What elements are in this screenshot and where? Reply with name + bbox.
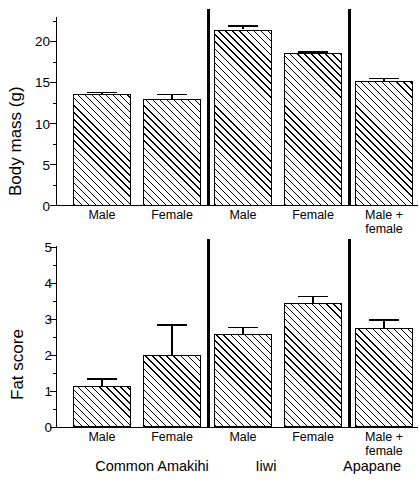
y-tick-label-0: 0: [28, 199, 50, 214]
bar-fat-score-apapane-male-female: [355, 328, 413, 427]
y-tick-label-10: 10: [28, 117, 50, 132]
bar-body-mass-amakihi-female: [143, 99, 201, 206]
y-tick-major-10: [50, 123, 56, 124]
bar-fat-score-iiwi-male: [214, 334, 272, 427]
species-label-iiwi: Iiwi: [231, 458, 301, 474]
y-tick-label-1: 1: [30, 384, 52, 399]
panel-body-mass: Body mass (g) 20 15 10 5 0: [0, 0, 419, 244]
y-tick-minor-4p5: [53, 265, 57, 266]
y-tick-major-1: [50, 391, 56, 392]
y-tick-label-20: 20: [28, 34, 50, 49]
error-bar-fat-score-iiwi-female: [298, 296, 328, 303]
y-tick-minor-2p5: [53, 185, 57, 186]
error-bar-fat-score-iiwi-male: [228, 327, 258, 334]
x-tick-label-top-amakihi-female: Female: [142, 209, 202, 223]
y-axis-line-bottom: [56, 246, 57, 428]
error-bar-body-mass-iiwi-male: [228, 25, 258, 29]
y-tick-major-5: [50, 164, 56, 165]
group-separator-1: [207, 9, 210, 206]
bar-body-mass-iiwi-female: [284, 53, 342, 206]
y-tick-minor-0p5: [53, 409, 57, 410]
error-bar-fat-score-amakihi-male: [87, 378, 117, 385]
y-tick-minor-1p5: [53, 373, 57, 374]
x-tick-label-top-iiwi-male: Male: [213, 209, 273, 223]
species-label-common-amakihi: Common Amakihi: [42, 458, 262, 474]
y-tick-major-2: [50, 355, 56, 356]
y-tick-major-0: [50, 205, 56, 206]
error-bar-body-mass-iiwi-female: [298, 51, 328, 53]
error-bar-fat-score-apapane-male-female: [369, 319, 399, 328]
y-tick-minor-12p5: [53, 103, 57, 104]
bar-fat-score-amakihi-female: [143, 355, 201, 427]
x-tick-label-bottom-amakihi-male: Male: [72, 431, 132, 445]
x-tick-label-top-iiwi-female: Female: [283, 209, 343, 223]
group-separator-2: [348, 9, 351, 206]
group-separator-2-bottom: [348, 239, 351, 427]
y-tick-minor-3p5: [53, 301, 57, 302]
y-axis-line: [56, 17, 57, 206]
x-tick-label-bottom-amakihi-female: Female: [142, 431, 202, 445]
x-tick-label-bottom-apapane-male-female: Male + female: [354, 431, 414, 458]
y-tick-label-2: 2: [30, 348, 52, 363]
y-tick-major-3: [50, 319, 56, 320]
y-tick-label-0-bottom: 0: [30, 420, 52, 435]
error-bar-body-mass-amakihi-female: [157, 94, 187, 99]
error-bar-body-mass-amakihi-male: [87, 92, 117, 95]
y-tick-label-15: 15: [28, 75, 50, 90]
x-tick-label-top-amakihi-male: Male: [72, 209, 132, 223]
error-bar-fat-score-amakihi-female: [157, 324, 187, 355]
y-tick-major-0-bottom: [50, 427, 56, 428]
figure-container: Body mass (g) 20 15 10 5 0: [0, 0, 419, 487]
x-tick-label-bottom-iiwi-male: Male: [213, 431, 273, 445]
group-separator-1-bottom: [207, 239, 210, 427]
y-tick-major-5: [50, 247, 56, 248]
x-tick-label-bottom-iiwi-female: Female: [283, 431, 343, 445]
bar-fat-score-amakihi-male: [73, 386, 131, 427]
y-tick-minor-22p5: [53, 21, 57, 22]
y-axis-label-body-mass: Body mass (g): [6, 86, 26, 196]
bar-fat-score-iiwi-female: [284, 303, 342, 427]
y-tick-label-5: 5: [30, 240, 52, 255]
species-label-apapane: Apapane: [327, 458, 417, 474]
x-tick-label-top-apapane-male-female: Male + female: [354, 209, 414, 236]
y-tick-major-15: [50, 82, 56, 83]
y-tick-label-4: 4: [30, 276, 52, 291]
y-tick-label-3: 3: [30, 312, 52, 327]
bar-body-mass-iiwi-male: [214, 30, 272, 207]
x-axis-line-bottom: [56, 427, 418, 428]
bar-body-mass-amakihi-male: [73, 94, 131, 206]
y-tick-label-5: 5: [28, 158, 50, 173]
y-tick-minor-17p5: [53, 62, 57, 63]
panel-fat-score: Fat score 5 4 3 2 1 0: [0, 235, 419, 445]
y-tick-minor-2p5: [53, 337, 57, 338]
error-bar-body-mass-apapane-male-female: [369, 78, 399, 82]
y-tick-major-20: [50, 41, 56, 42]
y-tick-major-4: [50, 283, 56, 284]
y-tick-minor-7p5: [53, 144, 57, 145]
y-axis-label-fat-score: Fat score: [8, 329, 28, 400]
bar-body-mass-apapane-male-female: [355, 81, 413, 206]
